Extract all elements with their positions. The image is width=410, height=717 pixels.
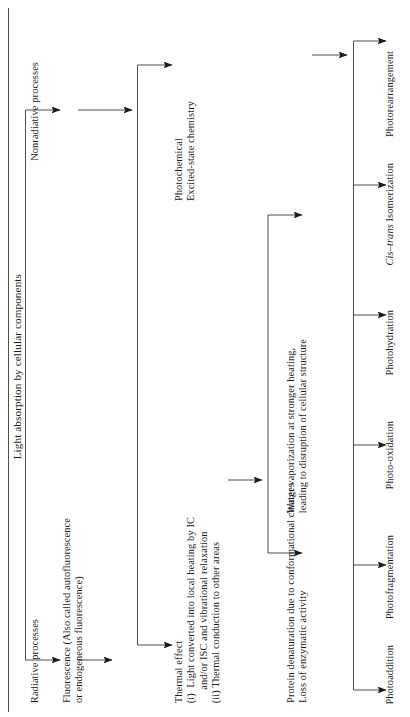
- outcome-photorearrangement: Photorearrangement: [384, 51, 396, 137]
- outcome-photofragmentation: Photofragmentation: [384, 535, 396, 619]
- diagram-canvas: Light absorption by cellular components …: [0, 0, 410, 717]
- outcome-isomerization: Cis–trans Isomerization: [384, 163, 396, 265]
- node-nonradiative-processes: Nonradiative processes: [29, 62, 41, 161]
- node-photochemical: Photochemical Excited-state chemistry: [173, 101, 198, 201]
- outcome-isomerization-italic-prefix: Cis–trans: [384, 224, 395, 265]
- outcome-photohydration: Photohydration: [384, 310, 396, 375]
- node-protein-denaturation: Protein denaturation due to conformation…: [285, 483, 310, 703]
- outcome-photo-oxidation: Photo-oxidation: [384, 421, 396, 489]
- outcome-isomerization-text: Isomerization: [384, 163, 395, 221]
- node-radiative-processes: Radiative processes: [29, 619, 41, 703]
- node-thermal-effect: Thermal effect (i) Light converted into …: [173, 517, 222, 703]
- node-fluorescence: Fluorescence (Also called autofluorescen…: [61, 518, 86, 703]
- diagram-title: Light absorption by cellular components: [11, 274, 24, 459]
- outcome-photoaddition: Photoaddition: [384, 645, 396, 705]
